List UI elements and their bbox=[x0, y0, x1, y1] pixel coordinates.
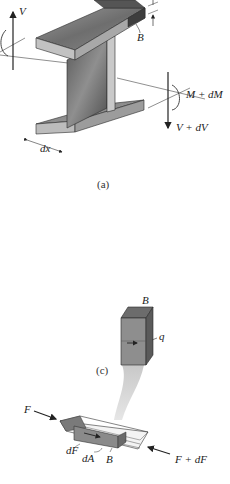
force-arrow-F bbox=[34, 411, 56, 419]
leader-line bbox=[110, 448, 112, 452]
web-edge bbox=[107, 36, 115, 112]
force-arrow-F-dF bbox=[148, 447, 170, 454]
caption-a: (a) bbox=[97, 178, 110, 191]
moment-arc-right bbox=[172, 85, 180, 110]
label-V: V bbox=[19, 5, 27, 17]
panel-a: V B M + dM V + dV dx (a) bbox=[0, 0, 224, 191]
caption-c: (c) bbox=[96, 364, 109, 377]
label-B-top: B bbox=[137, 31, 144, 43]
panel-c: B q (c) F F + dF dF dA B bbox=[23, 294, 207, 465]
label-B-bottom: B bbox=[106, 453, 113, 465]
diagram-canvas: V B M + dM V + dV dx (a) bbox=[0, 0, 230, 484]
label-F-dF: F + dF bbox=[174, 453, 207, 465]
dim-tick bbox=[148, 10, 158, 14]
moment-arc-left bbox=[1, 30, 8, 56]
label-V-dV: V + dV bbox=[176, 121, 209, 133]
label-q: q bbox=[159, 330, 165, 342]
axis-line bbox=[148, 88, 190, 108]
label-block-B: B bbox=[142, 294, 149, 306]
axis-line bbox=[0, 55, 68, 63]
label-dx: dx bbox=[40, 142, 51, 154]
leader-line bbox=[94, 448, 102, 452]
flange-portion-B bbox=[94, 0, 145, 8]
label-M-dM: M + dM bbox=[185, 88, 224, 100]
label-F: F bbox=[23, 403, 31, 415]
label-dF: dF bbox=[66, 444, 79, 456]
block-front bbox=[121, 318, 146, 365]
label-dA: dA bbox=[82, 452, 95, 464]
connector-shading bbox=[114, 365, 144, 420]
